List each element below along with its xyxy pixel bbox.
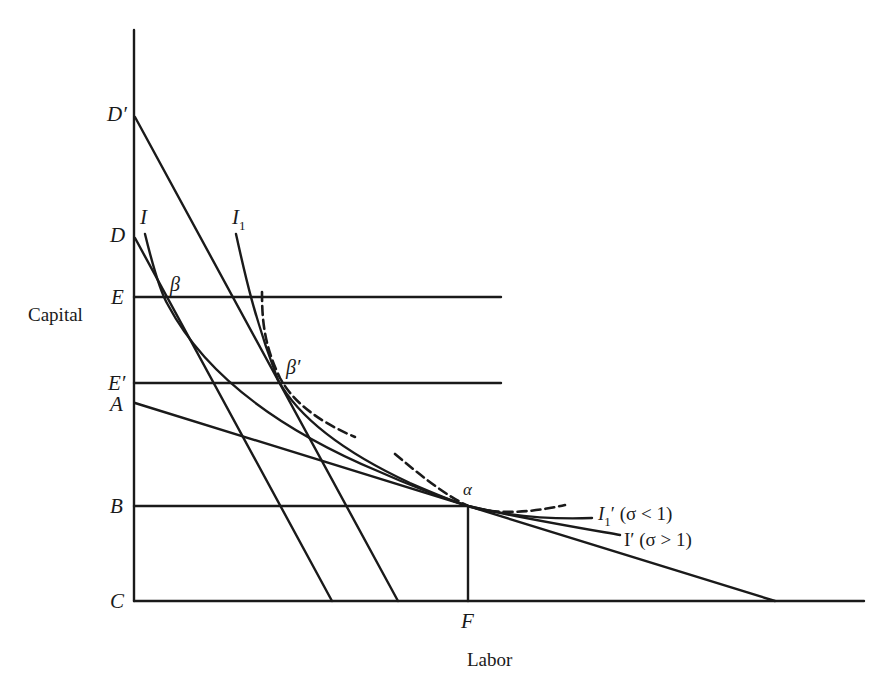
point-label-E: E xyxy=(111,287,124,308)
curve-label-I-prime: I′ (σ > 1) xyxy=(624,530,692,549)
curve-label-I1-prime: I1′ (σ < 1) xyxy=(598,504,672,523)
dashed-curve-alpha xyxy=(395,454,565,512)
point-label-D-prime: D′ xyxy=(107,104,127,125)
curve-label-I: I xyxy=(140,207,147,228)
point-label-beta: β xyxy=(170,274,180,294)
line-D-prime xyxy=(135,117,398,601)
isoquant-diagram xyxy=(0,0,888,684)
point-label-D: D xyxy=(110,225,125,246)
point-label-B: B xyxy=(110,496,123,517)
isoquant-I xyxy=(145,234,620,535)
point-label-F: F xyxy=(461,611,474,632)
line-D xyxy=(135,238,332,601)
point-label-alpha: α xyxy=(463,481,472,498)
curve-label-I1: I1 xyxy=(232,207,246,228)
dashed-curve-beta-prime xyxy=(262,292,355,437)
point-label-C: C xyxy=(110,591,124,612)
y-axis-label: Capital xyxy=(28,305,83,324)
point-label-E-prime: E′ xyxy=(108,373,125,394)
point-label-beta-prime: β′ xyxy=(286,357,300,377)
point-label-A: A xyxy=(110,394,123,415)
x-axis-label: Labor xyxy=(467,650,512,669)
